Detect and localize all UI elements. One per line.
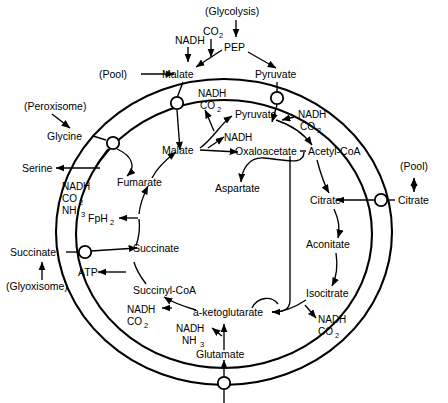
pyruvate-porter-icon[interactable] [271, 92, 283, 104]
pathway-diagram-svg: (Glycolysis) PEP NADH CO 2 (Pool) Malate… [0, 0, 448, 403]
transporter-glycine-serine[interactable] [107, 137, 119, 149]
co2-pa-label: CO [300, 121, 315, 132]
malate-matrix-label: Malate [162, 144, 194, 156]
cofactors-glutamate-akg: NADH NH 3 [176, 323, 222, 349]
line-succinylcoa-succinate [134, 262, 146, 284]
succinyl-coa-label: Succinyl-CoA [133, 284, 196, 296]
glutamate-label: Glutamate [196, 348, 245, 360]
citrate-matrix-label: Citrate [310, 194, 341, 206]
arrow-pep-malate [196, 50, 222, 67]
co2-pep-label: CO [203, 25, 219, 37]
serine-label: Serine [22, 162, 53, 174]
oxaloacetate-label: Oxaloacetate [235, 145, 297, 157]
glycine-porter-icon[interactable] [107, 137, 119, 149]
atp-label: ATP [78, 266, 98, 278]
co2-gly-label: CO [62, 193, 77, 204]
malate-outer-label: Malate [162, 68, 194, 80]
line-loop-to-serine [95, 149, 108, 168]
co2-as-sub: 2 [144, 321, 148, 330]
aspartate-label: Aspartate [215, 182, 260, 194]
fph2-label: FpH [88, 212, 108, 224]
nh3-gly-sub: 3 [81, 210, 85, 219]
nadh-ik-label: NADH [318, 314, 346, 325]
pep-label: PEP [224, 41, 245, 53]
pyruvate-matrix-label: Pyruvate [235, 108, 277, 120]
arrow-peroxisome-glycine [52, 114, 70, 128]
aconitate-label: Aconitate [306, 238, 350, 250]
nh3-ga-label: NH [182, 335, 196, 346]
line-oaa-to-akg [272, 156, 290, 312]
co2-pa-sub: 2 [317, 126, 321, 135]
co2-ik-sub: 2 [335, 331, 339, 340]
nadh-moaa-label: NADH [224, 132, 252, 143]
transporter-bottom[interactable] [218, 360, 230, 403]
acetyl-coa-label: Acetyl-CoA [308, 145, 361, 157]
malate-porter-icon[interactable] [171, 97, 183, 109]
nadh-ga-label: NADH [176, 323, 204, 334]
peroxisome-group: (Peroxisome) Glycine [24, 100, 106, 142]
pool-left-label: (Pool) [99, 68, 127, 80]
isocitrate-label: Isocitrate [306, 287, 349, 299]
arrow-cofactor-ik [305, 305, 316, 318]
co2-mp-label: CO [200, 100, 215, 111]
cofactors-glycine-serine: NADH CO 2 NH 3 [62, 181, 90, 219]
transporter-malate[interactable] [171, 97, 183, 150]
succinate-outer-label: Succinate [10, 246, 56, 258]
succinate-matrix-label: Succinate [133, 242, 179, 254]
bottom-porter-icon[interactable] [218, 377, 230, 389]
arrow-cofactor-ga [212, 328, 222, 336]
glyoxisome-label: (Glyoxisome) [6, 280, 68, 292]
transporter-citrate[interactable] [336, 194, 387, 206]
pool-right-label: (Pool) [400, 160, 428, 172]
pyruvate-outer-label: Pyruvate [255, 68, 297, 80]
nadh-mp-label: NADH [198, 88, 226, 99]
nadh-pa-label: NADH [298, 109, 326, 120]
co2-pep-sub: 2 [219, 31, 223, 40]
arrow-cofactor-pa [282, 117, 294, 120]
citrate-porter-icon[interactable] [375, 194, 387, 206]
glycine-label: Glycine [47, 130, 82, 142]
succinate-porter-icon[interactable] [79, 246, 91, 258]
nh3-ga-sub: 3 [200, 340, 204, 349]
peroxisome-label: (Peroxisome) [24, 100, 86, 112]
fph2-group: FpH 2 [88, 212, 138, 227]
arrow-glycine-loop [117, 149, 132, 176]
co2-gly-sub: 2 [79, 198, 83, 207]
pool-malate-group: (Pool) Malate [99, 68, 194, 80]
fumarate-label: Fumarate [117, 176, 162, 188]
nadh-pep-label: NADH [175, 34, 205, 46]
arrow-pep-pyruvate [248, 52, 276, 68]
citrate-pool-group: (Pool) Citrate [387, 160, 429, 206]
glyoxisome-group: Succinate (Glyoxisome) [6, 246, 82, 292]
glycolysis-label: (Glycolysis) [205, 5, 259, 17]
arrow-acetylcoa-citrate [317, 160, 329, 193]
pathway-diagram-root: (Glycolysis) PEP NADH CO 2 (Pool) Malate… [0, 0, 448, 403]
arrow-succinate-fumarate [139, 186, 148, 214]
co2-as-label: CO [127, 316, 142, 327]
cofactors-akg-succinylcoa: NADH CO 2 [127, 304, 172, 330]
fph2-sub: 2 [110, 218, 114, 227]
arrow-porter-succinate-in [91, 248, 137, 251]
nadh-gly-label: NADH [62, 181, 90, 192]
arrow-malate-oaa [200, 150, 238, 152]
transporter-succinate[interactable] [79, 246, 137, 258]
line-glycine-porter [93, 136, 106, 140]
pep-cofactor-inputs: NADH CO 2 [175, 25, 223, 62]
arrow-citrate-aconitate [334, 209, 339, 238]
nadh-as-label: NADH [127, 304, 155, 315]
arrow-aconitate-isocitrate [332, 253, 337, 286]
co2-mp-sub: 2 [217, 105, 221, 114]
nh3-gly-label: NH [62, 205, 76, 216]
cofactors-isocitrate-akg: NADH CO 2 [305, 305, 346, 340]
citrate-outer-label: Citrate [398, 194, 429, 206]
arrow-cofactor-mp [205, 110, 214, 131]
co2-ik-label: CO [318, 326, 333, 337]
